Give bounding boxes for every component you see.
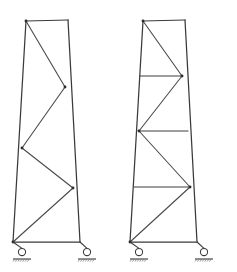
joint-4 <box>72 187 75 190</box>
support-stem <box>130 242 139 248</box>
roller-circle <box>200 248 207 255</box>
diagonal-member-2 <box>22 87 65 148</box>
diagonal-member-4 <box>13 188 73 242</box>
roller-support-left <box>130 242 148 262</box>
support-stem <box>80 242 87 248</box>
diagonal-member-1 <box>26 21 65 87</box>
support-stem <box>13 242 22 248</box>
roller-support-right <box>195 242 213 262</box>
roller-circle <box>135 248 142 255</box>
left-truss <box>12 20 96 262</box>
roller-circle <box>83 248 90 255</box>
top-chord <box>26 20 68 21</box>
support-stem <box>197 242 204 248</box>
diagonal-member-3 <box>139 131 190 187</box>
top-chord <box>143 20 185 21</box>
truss-diagram-figure <box>0 0 237 272</box>
diagonal-member-4 <box>130 187 190 242</box>
joint-2 <box>64 86 67 89</box>
diagonal-member-2 <box>139 76 182 131</box>
roller-circle <box>18 248 25 255</box>
right-chord <box>68 20 80 242</box>
joint-4 <box>189 186 192 189</box>
joint-1 <box>142 20 145 23</box>
diagonal-member-3 <box>22 148 73 188</box>
joint-3 <box>21 147 24 150</box>
truss-diagram-canvas <box>0 0 237 272</box>
right-truss <box>129 20 213 262</box>
left-chord <box>13 21 26 242</box>
diagonal-member-1 <box>143 21 182 76</box>
joint-2 <box>181 75 184 78</box>
joint-3 <box>138 130 141 133</box>
roller-support-left <box>13 242 31 262</box>
roller-support-right <box>78 242 96 262</box>
joint-1 <box>25 20 28 23</box>
